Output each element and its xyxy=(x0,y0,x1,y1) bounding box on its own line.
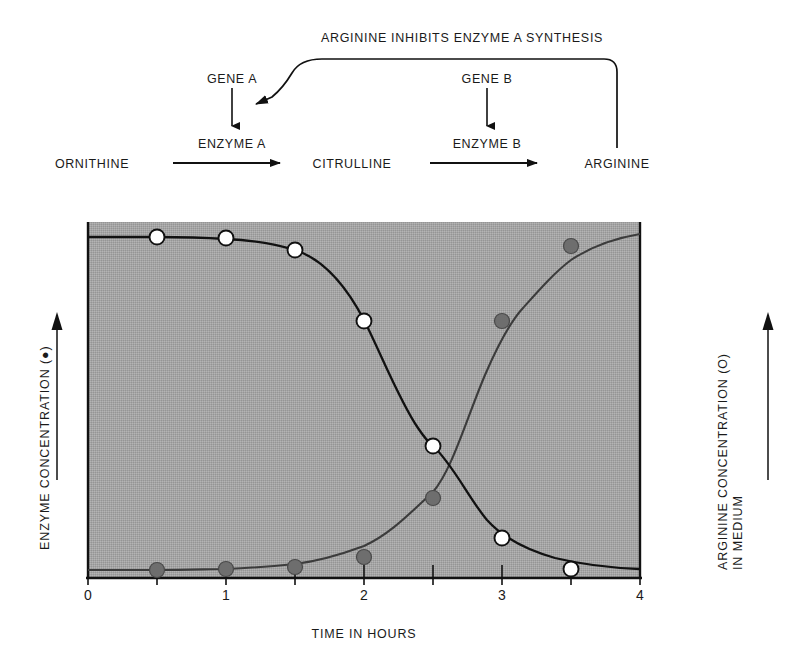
y-axis-right-title-line1: ARGININE CONCENTRATION (O) xyxy=(716,353,731,570)
chart: 0 1 2 3 4 TIME IN HOURS ENZYME CONCENTRA… xyxy=(0,0,796,669)
xtick-label-3: 3 xyxy=(498,587,506,603)
xtick-label-0: 0 xyxy=(84,587,92,603)
xtick-label-1: 1 xyxy=(222,587,230,603)
xtick-label-4: 4 xyxy=(636,587,644,603)
y-axis-right-title-line2: IN MEDIUM xyxy=(731,353,746,570)
y-axis-right-title: ARGININE CONCENTRATION (O) IN MEDIUM xyxy=(716,353,746,570)
right-axis-direction-arrow xyxy=(763,312,774,480)
y-axis-left-title: ENZYME CONCENTRATION (●) xyxy=(38,345,53,550)
series-arginine-markers xyxy=(150,239,579,578)
series-enzyme-line xyxy=(88,237,640,569)
series-arginine-line xyxy=(88,234,640,570)
x-axis-title: TIME IN HOURS xyxy=(312,627,417,641)
left-axis-direction-arrow xyxy=(52,312,63,480)
figure-root: ARGININE INHIBITS ENZYME A SYNTHESIS GEN… xyxy=(0,0,796,669)
series-enzyme-markers xyxy=(150,230,579,577)
xtick-label-2: 2 xyxy=(360,587,368,603)
chart-canvas xyxy=(0,0,796,669)
x-axis-ticks xyxy=(88,565,640,585)
